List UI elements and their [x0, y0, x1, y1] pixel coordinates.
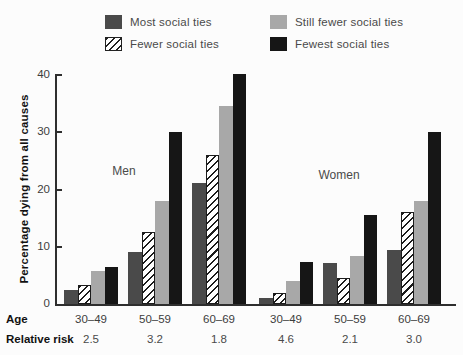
bar-fewer-social-ties-group2 — [206, 155, 220, 305]
relative-risk-value: 1.8 — [187, 333, 251, 345]
bar-fewer-social-ties-group1 — [142, 232, 156, 304]
y-tick-mark — [56, 131, 62, 133]
bar-fewer-social-ties-group3 — [273, 293, 287, 305]
legend-label: Still fewer social ties — [295, 16, 403, 28]
y-tick-label: 30 — [18, 125, 50, 137]
y-tick-label: 20 — [18, 183, 50, 195]
legend-swatch-still-fewer-social-ties — [270, 15, 287, 29]
bar-still-fewer-social-ties-group2 — [219, 106, 233, 304]
panel-label-men: Men — [89, 164, 159, 178]
legend-swatch-fewer-social-ties — [105, 37, 122, 51]
bar-still-fewer-social-ties-group3 — [286, 281, 300, 304]
x-axis-line — [55, 304, 456, 306]
relative-risk-value: 4.6 — [254, 333, 318, 345]
figure: Most social ties Fewer social ties Still… — [0, 0, 463, 355]
y-tick-mark — [56, 189, 62, 191]
y-tick-mark — [56, 74, 62, 76]
y-tick-label: 0 — [18, 297, 50, 309]
legend-item-fewest-social-ties: Fewest social ties — [270, 37, 389, 51]
bar-fewest-social-ties-group0 — [105, 267, 119, 304]
age-group-label: 60–69 — [382, 313, 446, 325]
age-group-label: 30–49 — [59, 313, 123, 325]
legend-swatch-most-social-ties — [105, 15, 122, 29]
relative-risk-value: 3.0 — [382, 333, 446, 345]
bar-fewest-social-ties-group5 — [428, 132, 442, 305]
relative-risk-value: 2.5 — [59, 333, 123, 345]
bar-most-social-ties-group0 — [64, 290, 78, 304]
bar-fewer-social-ties-group0 — [78, 285, 92, 304]
age-row-label: Age — [6, 313, 28, 325]
bar-fewer-social-ties-group4 — [337, 278, 351, 304]
legend-label: Fewer social ties — [130, 38, 219, 50]
bar-still-fewer-social-ties-group4 — [350, 256, 364, 304]
bar-fewer-social-ties-group5 — [401, 212, 415, 304]
y-tick-label: 10 — [18, 240, 50, 252]
bar-fewest-social-ties-group4 — [364, 215, 378, 304]
legend-swatch-fewest-social-ties — [270, 37, 287, 51]
age-group-label: 50–59 — [318, 313, 382, 325]
bar-fewest-social-ties-group2 — [233, 74, 247, 304]
bar-fewest-social-ties-group3 — [300, 262, 314, 304]
bar-still-fewer-social-ties-group5 — [414, 201, 428, 305]
y-tick-mark — [56, 246, 62, 248]
bar-most-social-ties-group5 — [387, 250, 401, 304]
y-tick-label: 40 — [18, 68, 50, 80]
bar-most-social-ties-group4 — [323, 263, 337, 304]
bar-most-social-ties-group2 — [192, 183, 206, 304]
age-group-label: 60–69 — [187, 313, 251, 325]
legend-label: Fewest social ties — [295, 38, 389, 50]
bar-still-fewer-social-ties-group0 — [91, 271, 105, 304]
relative-risk-value: 2.1 — [318, 333, 382, 345]
relative-risk-value: 3.2 — [123, 333, 187, 345]
legend-item-still-fewer-social-ties: Still fewer social ties — [270, 15, 403, 29]
age-group-label: 50–59 — [123, 313, 187, 325]
legend-label: Most social ties — [130, 16, 212, 28]
legend-item-fewer-social-ties: Fewer social ties — [105, 37, 219, 51]
bar-most-social-ties-group1 — [128, 252, 142, 304]
legend-item-most-social-ties: Most social ties — [105, 15, 212, 29]
bar-still-fewer-social-ties-group1 — [155, 201, 169, 305]
panel-label-women: Women — [304, 168, 374, 182]
age-group-label: 30–49 — [254, 313, 318, 325]
bar-fewest-social-ties-group1 — [169, 132, 183, 305]
